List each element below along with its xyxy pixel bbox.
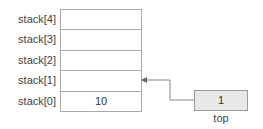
- arrowhead-icon: [141, 77, 147, 83]
- top-variable-box: 1: [194, 90, 248, 111]
- top-variable-label: top: [194, 112, 248, 124]
